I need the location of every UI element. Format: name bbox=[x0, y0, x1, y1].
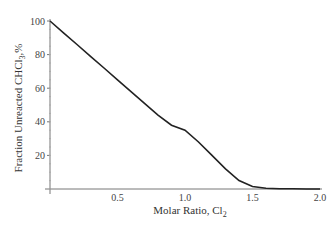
x-tick-label: 2.0 bbox=[314, 192, 327, 203]
y-axis-title: Fraction Unreacted CHCl3,% bbox=[12, 44, 27, 173]
y-tick-label: 20 bbox=[35, 150, 45, 161]
y-tick-label: 100 bbox=[30, 16, 45, 27]
y-tick-label: 60 bbox=[35, 83, 45, 94]
y-tick-label: 80 bbox=[35, 49, 45, 60]
chart: 20406080100 0.51.01.52.0 Molar Ratio, Cl… bbox=[0, 0, 336, 229]
y-tick-label: 40 bbox=[35, 116, 45, 127]
data-line bbox=[50, 21, 320, 189]
x-axis-title: Molar Ratio, Cl2 bbox=[153, 204, 226, 219]
x-tick-label: 1.0 bbox=[179, 192, 192, 203]
x-tick-label: 1.5 bbox=[246, 192, 259, 203]
x-tick-label: 0.5 bbox=[111, 192, 124, 203]
y-ticks: 20406080100 bbox=[30, 16, 51, 190]
x-ticks: 0.51.01.52.0 bbox=[111, 192, 326, 203]
